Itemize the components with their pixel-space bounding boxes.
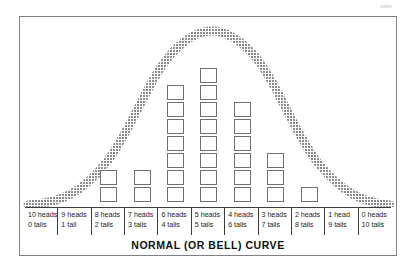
block-square xyxy=(167,136,184,151)
axis-tails-label: 7 tails xyxy=(262,220,291,230)
axis-cell: 1 head 9 tails xyxy=(325,208,358,235)
block-square xyxy=(267,170,284,185)
axis-tails-label: 1 tail xyxy=(61,220,90,230)
block-square xyxy=(134,187,151,202)
block-column-6-heads xyxy=(159,17,192,207)
axis-label-band: 10 heads 0 tails 9 heads 1 tail 8 heads … xyxy=(25,207,391,235)
axis-heads-label: 0 heads xyxy=(362,210,391,220)
bell-curve-figure: 10 heads 0 tails 9 heads 1 tail 8 heads … xyxy=(0,0,416,273)
block-columns xyxy=(25,17,393,207)
axis-cell: 2 heads 8 tails xyxy=(292,208,325,235)
scan-artifact xyxy=(380,5,392,8)
axis-heads-label: 2 heads xyxy=(295,210,324,220)
block-column-10-heads xyxy=(25,17,58,207)
block-square xyxy=(234,119,251,134)
axis-cell: 0 heads 10 tails xyxy=(359,208,391,235)
block-square xyxy=(167,119,184,134)
plot-area xyxy=(20,17,396,207)
block-square xyxy=(200,68,217,83)
axis-tails-label: 4 tails xyxy=(161,220,190,230)
block-square xyxy=(234,102,251,117)
block-column-5-heads xyxy=(192,17,225,207)
block-column-9-heads xyxy=(58,17,91,207)
figure-frame: 10 heads 0 tails 9 heads 1 tail 8 heads … xyxy=(19,16,397,256)
axis-cell: 3 heads 7 tails xyxy=(259,208,292,235)
block-square xyxy=(167,153,184,168)
block-square xyxy=(267,153,284,168)
axis-cell: 7 heads 3 tails xyxy=(125,208,158,235)
block-column-4-heads xyxy=(226,17,259,207)
block-square xyxy=(200,102,217,117)
block-square xyxy=(200,119,217,134)
block-column-8-heads xyxy=(92,17,125,207)
block-square xyxy=(100,170,117,185)
axis-tails-label: 0 tails xyxy=(28,220,57,230)
block-square xyxy=(234,187,251,202)
block-column-2-heads xyxy=(293,17,326,207)
axis-tails-label: 3 tails xyxy=(128,220,157,230)
block-square xyxy=(167,187,184,202)
block-square xyxy=(234,136,251,151)
block-column-7-heads xyxy=(125,17,158,207)
block-square xyxy=(200,85,217,100)
block-square xyxy=(167,85,184,100)
axis-cell: 8 heads 2 tails xyxy=(92,208,125,235)
axis-tails-label: 2 tails xyxy=(95,220,124,230)
block-square xyxy=(267,187,284,202)
block-column-3-heads xyxy=(259,17,292,207)
axis-tails-label: 6 tails xyxy=(228,220,257,230)
axis-cell: 9 heads 1 tail xyxy=(58,208,91,235)
block-square xyxy=(167,170,184,185)
axis-heads-label: 10 heads xyxy=(28,210,57,220)
axis-cell: 4 heads 6 tails xyxy=(225,208,258,235)
block-square xyxy=(200,136,217,151)
axis-heads-label: 5 heads xyxy=(195,210,224,220)
block-column-1-head xyxy=(326,17,359,207)
axis-tails-label: 10 tails xyxy=(362,220,391,230)
block-square xyxy=(200,170,217,185)
axis-heads-label: 1 head xyxy=(328,210,357,220)
block-column-0-heads xyxy=(360,17,393,207)
chart-title: NORMAL (OR BELL) CURVE xyxy=(20,239,396,251)
axis-heads-label: 7 heads xyxy=(128,210,157,220)
axis-heads-label: 4 heads xyxy=(228,210,257,220)
axis-heads-label: 3 heads xyxy=(262,210,291,220)
block-square xyxy=(234,170,251,185)
axis-tails-label: 5 tails xyxy=(195,220,224,230)
block-square xyxy=(234,153,251,168)
block-square xyxy=(301,187,318,202)
axis-tails-label: 8 tails xyxy=(295,220,324,230)
axis-heads-label: 6 heads xyxy=(161,210,190,220)
axis-cell: 10 heads 0 tails xyxy=(25,208,58,235)
axis-cell: 5 heads 5 tails xyxy=(192,208,225,235)
axis-tails-label: 9 tails xyxy=(328,220,357,230)
axis-cell: 6 heads 4 tails xyxy=(158,208,191,235)
block-square xyxy=(200,187,217,202)
axis-heads-label: 8 heads xyxy=(95,210,124,220)
block-square xyxy=(100,187,117,202)
block-square xyxy=(134,170,151,185)
axis-heads-label: 9 heads xyxy=(61,210,90,220)
block-square xyxy=(167,102,184,117)
block-square xyxy=(200,153,217,168)
